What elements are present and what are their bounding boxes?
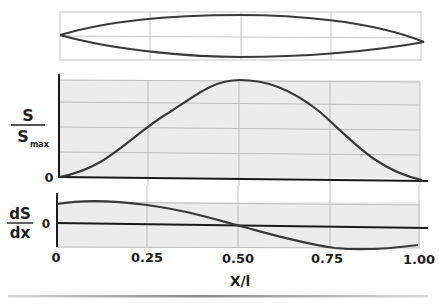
s-label-subscript: max bbox=[30, 140, 50, 149]
ds-label-denominator: dx bbox=[10, 224, 31, 242]
x-tick-label: 0.75 bbox=[311, 251, 343, 266]
figure: S S max 0 dS dx 0 0 0.25 0.50 0.75 1.00 … bbox=[0, 0, 439, 304]
x-tick-label: 0 bbox=[51, 250, 60, 265]
ds-zero-tick: 0 bbox=[42, 217, 50, 231]
x-tick-label: 1.00 bbox=[403, 252, 435, 267]
s-zero-tick: 0 bbox=[44, 170, 53, 185]
shape-panel bbox=[60, 12, 424, 60]
x-axis-title: X/l bbox=[230, 273, 251, 289]
s-label-denominator: S bbox=[17, 127, 29, 146]
area-slope-panel: dS dx 0 bbox=[7, 185, 428, 249]
x-axis-labels: 0 0.25 0.50 0.75 1.00 X/l bbox=[51, 250, 435, 289]
ds-label-numerator: dS bbox=[9, 205, 31, 223]
divider bbox=[8, 295, 428, 298]
x-tick-label: 0.25 bbox=[131, 250, 163, 265]
x-tick-label: 0.50 bbox=[222, 251, 254, 266]
area-distribution-panel: S S max 0 bbox=[11, 74, 428, 185]
s-label-numerator: S bbox=[22, 106, 34, 125]
